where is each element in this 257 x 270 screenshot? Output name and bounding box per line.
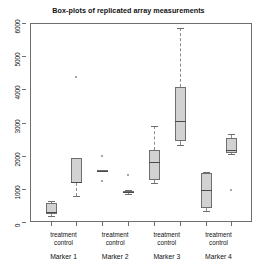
x-condition-label-treatment: treatment: [205, 231, 232, 238]
y-tick-label: 0: [14, 224, 21, 227]
whisker-upper: [180, 28, 182, 87]
whisker-cap-upper: [151, 126, 158, 127]
y-tick-mark: [22, 123, 26, 124]
y-tick-label: 4000: [14, 86, 21, 100]
x-condition-label-treatment: treatment: [102, 231, 129, 238]
y-tick-label: 5000: [14, 53, 21, 67]
whisker-cap-upper: [177, 28, 184, 29]
x-tick-mark: [231, 222, 232, 226]
y-tick-mark: [22, 222, 26, 223]
box: [175, 87, 186, 142]
boxplot-chart: Box-plots of replicated array measuremen…: [0, 0, 257, 270]
whisker-cap-lower: [203, 211, 210, 212]
whisker-lower: [76, 183, 78, 196]
x-condition-label-control: control: [54, 239, 73, 246]
box: [149, 150, 160, 180]
y-tick-mark: [22, 56, 26, 57]
x-condition-label-control: control: [209, 239, 228, 246]
y-tick-label: 3000: [14, 119, 21, 133]
x-group-label: Marker 1: [50, 253, 77, 260]
x-tick-mark: [154, 222, 155, 226]
whisker-cap-lower: [125, 194, 132, 195]
whisker-cap-lower: [177, 145, 184, 146]
x-condition-label-control: control: [106, 239, 125, 246]
median-line: [46, 212, 57, 213]
y-tick-mark: [22, 23, 26, 24]
x-group-label: Marker 2: [102, 253, 129, 260]
x-tick-mark: [51, 222, 52, 226]
x-tick-mark: [180, 222, 181, 226]
whisker-cap-lower: [228, 154, 235, 155]
whisker-cap-lower: [73, 196, 80, 197]
median-line: [97, 171, 108, 172]
x-condition-label-treatment: treatment: [50, 231, 77, 238]
box: [226, 138, 237, 153]
y-tick-label: 1000: [14, 185, 21, 199]
x-tick-mark: [76, 222, 77, 226]
whisker-cap-upper: [48, 201, 55, 202]
y-tick-mark: [22, 89, 26, 90]
x-tick-mark: [102, 222, 103, 226]
chart-title: Box-plots of replicated array measuremen…: [0, 6, 257, 15]
x-group-label: Marker 4: [205, 253, 232, 260]
whisker-cap-upper: [228, 134, 235, 135]
y-tick-label: 2000: [14, 152, 21, 166]
box: [71, 158, 82, 183]
whisker-cap-lower: [48, 216, 55, 217]
y-tick-mark: [22, 156, 26, 157]
whisker-cap-lower: [151, 183, 158, 184]
median-line: [226, 150, 237, 151]
x-condition-label-treatment: treatment: [154, 231, 181, 238]
x-tick-mark: [206, 222, 207, 226]
median-line: [201, 190, 212, 191]
outlier-point: [127, 174, 129, 176]
y-tick-mark: [22, 189, 26, 190]
median-line: [149, 162, 160, 163]
x-tick-mark: [128, 222, 129, 226]
plot-area: [30, 23, 252, 222]
x-group-label: Marker 3: [153, 253, 180, 260]
y-tick-label: 6000: [14, 20, 21, 34]
x-condition-label-control: control: [157, 239, 176, 246]
outlier-point: [75, 76, 77, 78]
median-line: [175, 121, 186, 122]
whisker-upper: [154, 126, 156, 150]
median-line: [71, 182, 82, 183]
median-line: [123, 192, 134, 193]
y-axis: 0100020003000400050006000: [0, 0, 30, 270]
